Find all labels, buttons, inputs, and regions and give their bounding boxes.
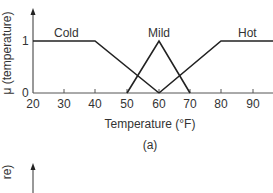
svg-text:70: 70 [183,97,197,111]
svg-text:40: 40 [88,97,102,111]
label-cold: Cold [54,26,79,40]
y-axis-2-label-partial: re) [0,165,14,180]
x-axis-label: Temperature (°F) [105,117,196,131]
svg-text:80: 80 [214,97,228,111]
series-cold [33,41,159,93]
y-axis-arrow-icon [31,8,36,15]
svg-text:30: 30 [57,97,71,111]
y-tick-1: 1 [22,34,29,48]
svg-text:60: 60 [152,97,166,111]
y-axis-2-arrow-icon [31,163,36,170]
fuzzy-membership-chart: Cold Mild Hot 1 0 20 30 40 50 60 70 80 9… [0,0,273,193]
y-axis-label: μ (temperature) [0,12,14,95]
label-hot: Hot [238,26,257,40]
svg-text:20: 20 [26,97,40,111]
series-hot [159,41,273,93]
svg-text:50: 50 [120,97,134,111]
x-tick-labels: 20 30 40 50 60 70 80 90 [26,97,260,111]
caption-a: (a) [143,138,158,152]
label-mild: Mild [148,26,170,40]
svg-text:90: 90 [246,97,260,111]
series-mild [127,41,190,93]
